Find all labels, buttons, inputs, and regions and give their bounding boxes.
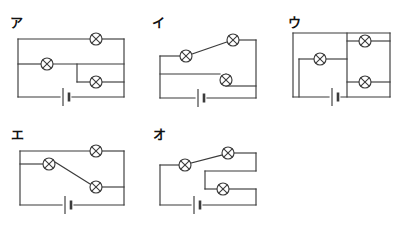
- wires-u: [293, 33, 390, 97]
- lamp-a-middle: [41, 58, 53, 70]
- battery-i: [198, 89, 204, 107]
- lamp-o-upper-right: [222, 147, 234, 159]
- battery-a: [63, 88, 69, 106]
- battery-e: [65, 196, 71, 214]
- battery-u: [332, 88, 338, 106]
- lamp-o-upper-left: [179, 159, 191, 171]
- lamp-i-upper-left: [180, 50, 192, 62]
- circuit-label-a: ア: [10, 16, 23, 29]
- lamp-o-lower: [217, 183, 229, 195]
- lamp-i-upper-right: [227, 34, 239, 46]
- wires-a: [18, 39, 124, 97]
- lamp-a-top: [90, 33, 102, 45]
- lamp-u-left: [314, 53, 326, 65]
- circuit-label-u: ウ: [288, 16, 301, 29]
- lamp-e-top: [90, 145, 102, 157]
- wires-e: [20, 151, 124, 205]
- wires-i: [160, 40, 256, 98]
- battery-o: [194, 196, 200, 214]
- lamp-u-bottom-right: [359, 76, 371, 88]
- lamp-i-lower-right: [220, 74, 232, 86]
- lamp-a-lower: [90, 76, 102, 88]
- circuit-label-i: イ: [152, 16, 165, 29]
- lamp-e-left: [43, 158, 55, 170]
- lamp-e-right: [90, 181, 102, 193]
- wires-o: [160, 153, 256, 205]
- circuit-label-o: オ: [153, 128, 166, 141]
- circuit-label-e: エ: [11, 128, 24, 141]
- lamp-u-top-right: [359, 35, 371, 47]
- circuit-diagram-sheet: アイウエオ: [0, 0, 400, 234]
